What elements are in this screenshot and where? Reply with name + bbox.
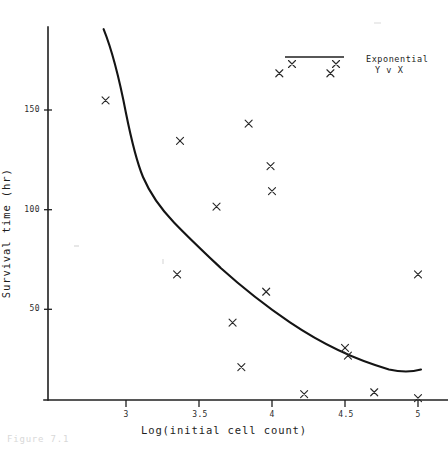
data-point-marker: [229, 319, 236, 326]
data-point-marker: [174, 271, 181, 278]
data-point-marker: [276, 70, 283, 77]
data-point-marker: [342, 344, 349, 351]
y-tick-label-100: 100: [14, 206, 40, 214]
data-point-marker: [415, 271, 422, 278]
data-point-marker: [213, 203, 220, 210]
legend-label-series: Y v X: [366, 65, 428, 76]
scan-artifact-speck: [162, 259, 164, 264]
x-tick-label-4-5: 4.5: [338, 411, 354, 419]
data-point-marker: [269, 188, 276, 195]
data-point-marker: [327, 70, 334, 77]
scan-artifact-speck: [74, 245, 79, 247]
x-tick-label-4: 4: [269, 411, 274, 419]
y-tick-label-150: 150: [14, 106, 40, 114]
data-point-marker: [371, 389, 378, 396]
exponential-fit-curve: [104, 29, 421, 371]
legend-marker-swatch: [289, 61, 296, 68]
data-point-marker: [238, 364, 245, 371]
scatter-markers: [102, 61, 421, 402]
legend-label-exponential: Exponential: [366, 54, 428, 64]
legend-marker-swatch: [333, 61, 340, 68]
data-point-marker: [301, 391, 308, 398]
scan-artifact-speck: [374, 22, 381, 24]
x-tick-label-3-5: 3.5: [192, 411, 208, 419]
data-point-marker: [245, 120, 252, 127]
data-point-marker: [267, 163, 274, 170]
data-point-marker: [102, 97, 109, 104]
chart-legend: Exponential Y v X: [366, 54, 428, 76]
figure-caption: Figure 7.1: [7, 434, 69, 444]
x-tick-label-3: 3: [123, 411, 128, 419]
y-tick-label-50: 50: [18, 305, 40, 313]
y-axis-title: Survival time (hr): [1, 168, 12, 298]
x-tick-label-5: 5: [415, 411, 420, 419]
data-point-marker: [177, 137, 184, 144]
x-axis-ticks: [126, 400, 418, 407]
data-point-marker: [263, 288, 270, 295]
x-axis-title: Log(initial cell count): [141, 425, 307, 436]
figure-container: 50 100 150 3 3.5 4 4.5 5 Log(initial cel…: [0, 0, 448, 449]
